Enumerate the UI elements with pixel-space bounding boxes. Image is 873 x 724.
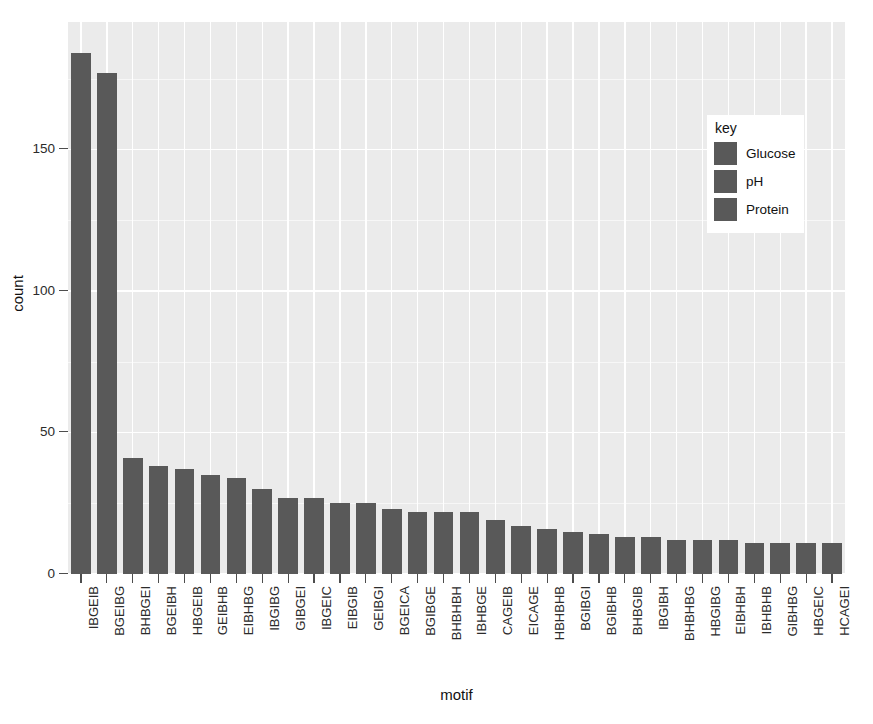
- bar: [278, 498, 298, 574]
- y-axis-tick-mark: [59, 290, 68, 291]
- x-axis-tick-label: EIBHBG: [241, 586, 256, 635]
- x-axis-tick-label: BGEICA: [397, 586, 412, 635]
- x-axis-tick-mark: [391, 574, 392, 583]
- x-axis-tick-label: IBHBHB: [759, 586, 774, 634]
- x-axis-tick-label: GIBHBG: [785, 586, 800, 637]
- y-axis-tick-text: 50: [40, 424, 55, 439]
- x-axis-tick-label: EIBGIB: [345, 586, 360, 629]
- x-axis-tick-mark: [728, 574, 729, 583]
- bar: [770, 543, 790, 574]
- y-axis-tick-label: 150: [32, 141, 68, 157]
- x-axis-tick-label: BHBHBG: [682, 586, 697, 641]
- x-axis-tick-mark: [80, 574, 81, 583]
- bar: [460, 512, 480, 574]
- x-axis-tick-label: HCAGEI: [837, 586, 852, 636]
- legend-swatch: [714, 170, 737, 193]
- x-axis-tick-label: BGEIBG: [112, 586, 127, 636]
- legend-label: Protein: [746, 202, 789, 217]
- bar: [71, 53, 91, 574]
- y-axis-tick-mark: [59, 148, 68, 149]
- legend-title: key: [714, 120, 796, 136]
- x-axis-tick-mark: [417, 574, 418, 583]
- bar: [382, 509, 402, 574]
- y-axis-tick-text: 100: [32, 283, 55, 298]
- bar: [97, 73, 117, 574]
- bar: [537, 529, 557, 574]
- bar: [434, 512, 454, 574]
- x-axis-tick-label: BGIBGE: [423, 586, 438, 636]
- x-axis-title: motif: [68, 686, 845, 703]
- x-axis-tick-mark: [210, 574, 211, 583]
- x-axis-tick-label: BHBGIB: [630, 586, 645, 635]
- y-axis-tick-label: 100: [32, 283, 68, 299]
- bar: [511, 526, 531, 574]
- x-axis-tick-label: CAGEIB: [500, 586, 515, 635]
- x-axis-tick-label: EICAGE: [526, 586, 541, 635]
- bar: [486, 520, 506, 574]
- y-axis-tick-text: 0: [47, 566, 55, 581]
- y-axis-tick-group: 050100150: [0, 0, 68, 586]
- x-axis-tick-mark: [754, 574, 755, 583]
- x-axis-tick-mark: [598, 574, 599, 583]
- bar: [796, 543, 816, 574]
- x-axis-tick-label: HBGEIC: [811, 586, 826, 636]
- x-axis-tick-label: IBGEIB: [86, 586, 101, 629]
- x-axis-tick-label: GEIBGI: [371, 586, 386, 631]
- x-axis-tick-label: BGIBGI: [578, 586, 593, 631]
- x-axis-tick-mark: [521, 574, 522, 583]
- x-axis-tick-mark: [547, 574, 548, 583]
- bar: [641, 537, 661, 574]
- bar: [123, 458, 143, 574]
- y-axis-tick-text: 150: [32, 141, 55, 156]
- x-axis-tick-mark: [831, 574, 832, 583]
- legend-item: pH: [714, 170, 796, 193]
- x-axis-title-label: motif: [440, 686, 473, 703]
- bar: [693, 540, 713, 574]
- x-axis-tick-mark: [262, 574, 263, 583]
- legend-label: Glucose: [746, 146, 796, 161]
- x-axis-tick-mark: [495, 574, 496, 583]
- y-axis-tick-label: 0: [47, 566, 68, 582]
- x-axis-tick-label: HBGIBG: [708, 586, 723, 637]
- x-axis-tick-label: BGIBHB: [604, 586, 619, 635]
- bar: [589, 534, 609, 574]
- bar: [563, 532, 583, 574]
- x-axis-tick-mark: [184, 574, 185, 583]
- bar: [227, 478, 247, 574]
- x-axis-tick-label: IBHBGE: [474, 586, 489, 635]
- x-axis-tick-group: IBGEIBBGEIBGBHBGEIBGEIBHHBGEIBGEIBHBEIBH…: [68, 574, 845, 686]
- x-axis-tick-mark: [702, 574, 703, 583]
- legend: key GlucosepHProtein: [707, 115, 804, 233]
- x-axis-tick-mark: [158, 574, 159, 583]
- bar: [667, 540, 687, 574]
- x-axis-tick-mark: [572, 574, 573, 583]
- legend-item: Protein: [714, 198, 796, 221]
- bar: [822, 543, 842, 574]
- x-axis-tick-mark: [443, 574, 444, 583]
- bar: [304, 498, 324, 574]
- x-axis-tick-label: BGEIBH: [164, 586, 179, 635]
- bar: [330, 503, 350, 574]
- legend-swatch: [714, 142, 737, 165]
- x-axis-tick-mark: [288, 574, 289, 583]
- bar: [615, 537, 635, 574]
- bar: [408, 512, 428, 574]
- x-axis-tick-label: HBHBHB: [552, 586, 567, 640]
- x-axis-tick-label: EIBHBH: [733, 586, 748, 634]
- x-axis-tick-mark: [132, 574, 133, 583]
- x-axis-tick-mark: [624, 574, 625, 583]
- bar: [719, 540, 739, 574]
- x-axis-tick-label: IBGIBH: [656, 586, 671, 630]
- x-axis-tick-mark: [650, 574, 651, 583]
- x-axis-tick-mark: [236, 574, 237, 583]
- x-axis-tick-label: GIBGEI: [293, 586, 308, 631]
- x-axis-tick-label: HBGEIB: [190, 586, 205, 635]
- plot-panel: [68, 22, 845, 574]
- bar: [201, 475, 221, 574]
- x-axis-tick-mark: [676, 574, 677, 583]
- x-axis-tick-label: IBGIBG: [267, 586, 282, 631]
- x-axis-tick-mark: [469, 574, 470, 583]
- legend-items: GlucosepHProtein: [714, 142, 796, 221]
- bar: [175, 469, 195, 574]
- y-axis-tick-mark: [59, 431, 68, 432]
